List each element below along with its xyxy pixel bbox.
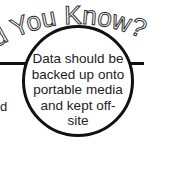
- callout-line: site: [30, 113, 126, 129]
- right-divider-line: [130, 62, 144, 65]
- callout-text: Data should be backed up onto portable m…: [30, 51, 126, 129]
- callout-line: Data should be: [30, 51, 126, 67]
- callout-line: and kept off-: [30, 98, 126, 114]
- left-divider-line: [0, 62, 26, 65]
- callout-line: portable media: [30, 82, 126, 98]
- callout-line: backed up onto: [30, 67, 126, 83]
- left-text-fragment: d: [0, 99, 7, 114]
